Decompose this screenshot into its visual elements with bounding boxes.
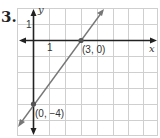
- y-axis-label: y: [37, 4, 44, 15]
- x-tick-label: 1: [47, 42, 53, 53]
- point-0-neg4: [31, 101, 36, 106]
- y-tick-label: 1: [26, 19, 32, 30]
- coordinate-graph: y x 1 1 (3, 0) (0, −4): [0, 0, 160, 138]
- point-label-0-neg4: (0, −4): [35, 108, 64, 119]
- point-label-3-0: (3, 0): [82, 44, 105, 55]
- point-3-0: [78, 38, 83, 43]
- x-axis-label: x: [149, 43, 155, 54]
